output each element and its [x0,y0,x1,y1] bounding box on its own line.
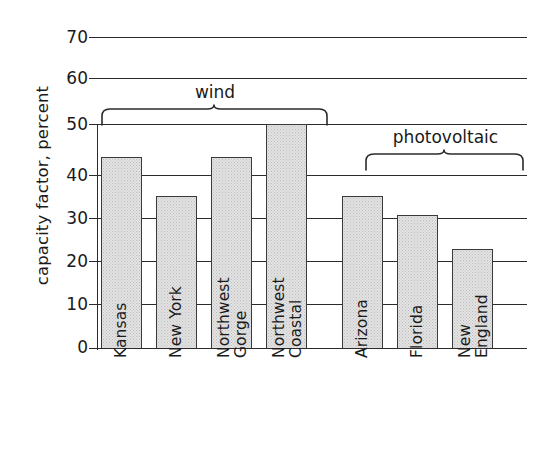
y-tick-label-10: 10 [44,296,88,313]
x-tick-label-kansas: Kansas [113,303,130,358]
y-tick-label-60: 60 [44,70,88,87]
y-tick-label-20: 20 [44,253,88,270]
y-axis-title: capacity factor, percent [33,61,52,311]
gridline-70 [97,37,527,38]
y-tick-label-40: 40 [44,167,88,184]
brace-wind [100,104,330,126]
group-label-photovoltaic: photovoltaic [368,127,523,147]
y-tick-label-50: 50 [44,116,88,133]
x-tick-label-arizona: Arizona [354,299,371,358]
x-tick-label-florida: Florida [409,305,426,358]
gridline-60 [97,78,527,79]
x-tick-label-new-york: New York [168,286,185,358]
y-tick-label-70: 70 [44,29,88,46]
group-label-wind: wind [155,82,275,102]
gridline-40 [97,175,527,176]
y-axis-line [97,124,98,350]
y-tick-60 [89,78,98,79]
x-tick-label-northwest-gorge: Northwest Gorge [216,277,249,358]
x-tick-label-northwest-coastal: Northwest Coastal [271,277,304,358]
y-tick-label-30: 30 [44,210,88,227]
y-tick-label-0: 0 [44,339,88,356]
y-tick-70 [89,37,98,38]
x-tick-label-new-england: New England [457,294,490,358]
brace-photovoltaic [364,149,526,171]
bar-chart: capacity factor, percent 0 10 20 30 40 5… [0,0,552,463]
